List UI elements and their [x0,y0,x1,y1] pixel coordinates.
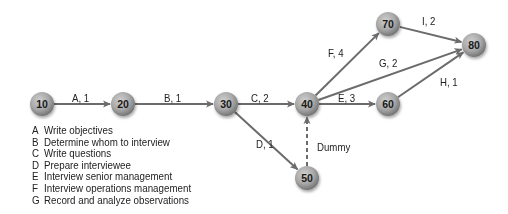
node-label: 60 [376,92,400,116]
node-label: 80 [462,33,486,57]
legend-key: G [32,195,41,207]
node-label: 30 [214,92,238,116]
legend-key: F [32,183,41,195]
activity-legend: A Write objectives B Determine whom to i… [32,125,191,206]
edge-label: I, 2 [422,15,435,27]
dummy-label: Dummy [317,141,350,153]
edge-label: B, 1 [164,92,181,104]
node-label: 50 [295,166,319,190]
legend-row-g: G Record and analyze observations [32,195,191,207]
legend-text: Prepare interviewee [44,159,131,171]
legend-text: Interview operations management [44,182,191,194]
edge-label: D, 1 [256,138,274,150]
edge-70-80 [400,27,462,42]
node-label: 70 [376,12,400,36]
legend-text: Determine whom to interview [44,136,170,148]
node-label: 20 [111,92,135,116]
legend-key: A [32,125,41,137]
edge-label: C, 2 [251,92,269,104]
edge-label: F, 4 [328,47,344,59]
node-label: 40 [295,92,319,116]
edge-label: G, 2 [379,57,397,69]
edge-60-80 [398,52,463,97]
edge-label: A, 1 [72,92,89,104]
legend-text: Interview senior management [44,170,172,182]
edge-label: H, 1 [440,76,458,88]
edge-40-70 [316,33,379,95]
node-label: 10 [30,92,54,116]
legend-text: Write questions [44,147,111,159]
edge-label: E, 3 [338,92,355,104]
legend-text: Write objectives [44,124,113,136]
legend-text: Record and analyze observations [44,194,189,206]
